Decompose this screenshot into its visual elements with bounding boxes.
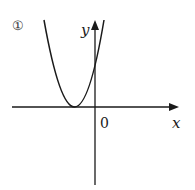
y-axis-arrow-icon	[91, 20, 99, 30]
origin-label: 0	[100, 115, 109, 131]
figure-marker: ①	[12, 18, 24, 33]
x-axis-arrow-icon	[169, 103, 179, 111]
y-axis-label: y	[80, 21, 90, 39]
graph-figure: ① y 0 x	[0, 0, 195, 190]
x-axis-label: x	[172, 114, 181, 132]
